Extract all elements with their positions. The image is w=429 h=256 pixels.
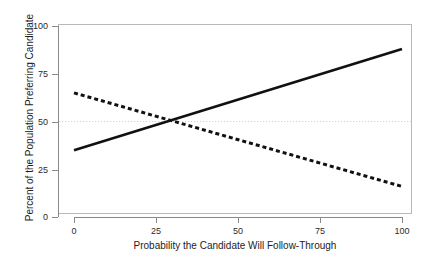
y-axis-title: Percent of the Population Preferring Can… — [24, 8, 35, 228]
chart-root: 100 75 50 25 0 0 25 50 75 100 Probabilit… — [0, 0, 429, 256]
series-declining-line — [74, 93, 402, 187]
series-rising-line — [74, 49, 402, 150]
x-axis-title: Probability the Candidate Will Follow-Th… — [58, 240, 412, 251]
chart-data-layer — [0, 0, 429, 256]
